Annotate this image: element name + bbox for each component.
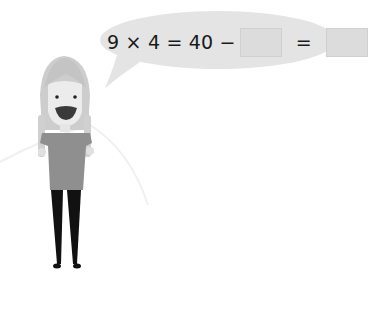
answer-box-2[interactable]: [326, 28, 368, 57]
math-expression: 9 × 4 = 40 − =: [107, 27, 368, 57]
girl-figure: [38, 56, 94, 269]
equals-sign: =: [296, 31, 312, 53]
answer-box-1[interactable]: [240, 28, 282, 57]
expression-left: 9 × 4 = 40 −: [107, 31, 236, 53]
